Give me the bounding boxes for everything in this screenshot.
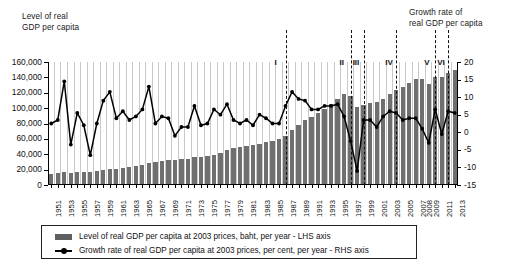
x-axis-tick-label: 2003: [393, 200, 402, 217]
y-axis-left-tick: [44, 154, 48, 155]
data-point: [323, 104, 327, 108]
data-point: [212, 108, 216, 112]
x-axis-tick: [129, 185, 130, 188]
data-point: [303, 99, 307, 103]
x-axis-tick: [331, 185, 332, 188]
x-axis-tick-label: 1995: [341, 200, 350, 217]
x-axis-tick: [123, 185, 124, 188]
x-axis-tick: [162, 185, 163, 188]
data-point: [153, 122, 157, 126]
data-point: [173, 134, 177, 138]
period-label-III: III: [353, 58, 360, 67]
x-axis-tick-label: 1967: [158, 200, 167, 217]
data-point: [271, 122, 275, 126]
x-axis-tick: [181, 185, 182, 188]
x-axis-tick: [396, 185, 397, 188]
x-axis-tick: [364, 185, 365, 188]
data-point: [375, 125, 379, 129]
data-point: [101, 99, 105, 103]
x-axis-tick: [455, 185, 456, 188]
data-point: [62, 79, 66, 83]
y-axis-left-tick-label: 100,000: [12, 103, 42, 113]
data-point: [88, 153, 92, 157]
data-point: [310, 108, 314, 112]
y-axis-left-tick-label: 40,000: [16, 149, 42, 159]
x-axis-tick-label: 1957: [93, 200, 102, 217]
legend-line-swatch-icon: [55, 247, 72, 255]
x-axis-tick: [318, 185, 319, 188]
data-point: [127, 118, 131, 122]
legend-label-level: Level of real GDP per capita at 2003 pri…: [79, 232, 331, 241]
x-axis-tick: [377, 185, 378, 188]
y-axis-right-tick: [457, 167, 461, 168]
x-axis-tick: [409, 185, 410, 188]
y-axis-right-tick: [457, 132, 461, 133]
x-axis-tick: [422, 185, 423, 188]
x-axis-tick-label: 1963: [132, 200, 141, 217]
x-axis-tick: [51, 185, 52, 188]
data-point: [193, 104, 197, 108]
y-axis-left-tick: [44, 108, 48, 109]
x-axis-tick: [312, 185, 313, 188]
data-point: [277, 122, 281, 126]
period-label-II: II: [340, 58, 344, 67]
x-axis-tick-label: 2005: [406, 200, 415, 217]
y-axis-left-tick-label: 0: [37, 180, 42, 190]
data-point: [180, 125, 184, 129]
y-axis-left-tick: [44, 93, 48, 94]
axis-line-left: [48, 62, 49, 185]
x-axis-tick-label: 1975: [210, 200, 219, 217]
y-axis-right-tick-label: -5: [464, 144, 471, 154]
x-axis-tick-label: 2009: [432, 200, 441, 217]
legend-label-growth: Growth rate of real GDP per capita at 20…: [79, 246, 369, 255]
x-axis-tick: [299, 185, 300, 188]
y-axis-right-tick-label: -10: [464, 162, 476, 172]
x-axis-labels: 1951195319551957195919611963196519671969…: [48, 189, 458, 219]
x-axis-tick-label: 1989: [302, 200, 311, 217]
x-axis-tick-label: 1985: [276, 200, 285, 217]
data-point: [219, 113, 223, 117]
data-point: [316, 108, 320, 112]
y-axis-left-labels: 020,00040,00060,00080,000100,000120,0001…: [0, 62, 42, 185]
x-axis-tick: [188, 185, 189, 188]
x-axis-tick-label: 1993: [328, 200, 337, 217]
data-point: [49, 122, 53, 126]
y-axis-right-tick-label: 15: [464, 74, 473, 84]
period-divider-IV: [396, 30, 397, 185]
x-axis-tick: [383, 185, 384, 188]
data-point: [368, 118, 372, 122]
x-axis-tick: [71, 185, 72, 188]
period-divider-II: [351, 30, 352, 185]
x-axis-tick-label: 1973: [197, 200, 206, 217]
x-axis-tick: [207, 185, 208, 188]
x-axis-tick-label: 1953: [67, 200, 76, 217]
data-point: [69, 143, 73, 147]
x-axis-tick-label: 1969: [171, 200, 180, 217]
x-axis-tick: [279, 185, 280, 188]
x-axis-tick-label: 2011: [445, 201, 454, 217]
data-point: [329, 104, 333, 108]
x-axis-tick: [142, 185, 143, 188]
x-axis-tick-label: 2013: [458, 200, 467, 217]
data-point: [140, 108, 144, 112]
x-axis-tick: [246, 185, 247, 188]
data-point: [160, 115, 164, 119]
x-axis-tick: [97, 185, 98, 188]
y-axis-left-tick: [44, 170, 48, 171]
x-axis-tick: [266, 185, 267, 188]
x-axis-tick: [448, 185, 449, 188]
x-axis-tick-label: 1987: [289, 200, 298, 217]
data-point: [388, 109, 392, 113]
y-axis-left-tick: [44, 77, 48, 78]
data-point: [114, 116, 118, 120]
period-divider-I: [286, 30, 287, 185]
x-axis-tick-label: 1999: [367, 200, 376, 217]
x-axis-tick: [220, 185, 221, 188]
x-axis-tick: [325, 185, 326, 188]
data-point: [134, 115, 138, 119]
y-axis-left-tick-label: 160,000: [12, 57, 42, 67]
x-axis-tick: [149, 185, 150, 188]
x-axis-tick: [403, 185, 404, 188]
x-axis-tick-label: 1979: [236, 200, 245, 217]
data-point: [56, 118, 60, 122]
